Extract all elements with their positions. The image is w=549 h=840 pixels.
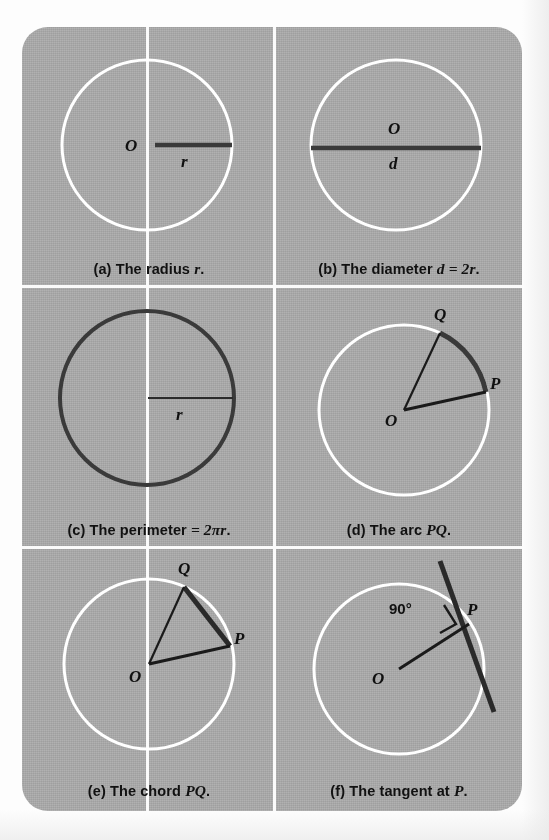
- panel-c-caption: (c) The perimeter = 2πr.: [24, 521, 274, 539]
- panel-d-caption-suffix: .: [447, 522, 451, 538]
- panel-b-caption-math: d = 2r: [437, 260, 476, 277]
- panel-d-diagram: [274, 288, 522, 549]
- label-point-p: P: [467, 601, 477, 618]
- panel-b-diagram: [274, 27, 522, 288]
- panel-d-caption-prefix: (d): [347, 522, 366, 538]
- panel-e-chord: Q P O (e) The chord PQ.: [24, 549, 274, 810]
- panel-a-caption: (a) The radius r.: [24, 260, 274, 278]
- figure-plate: O r (a) The radius r. O d (b) The diamet…: [22, 27, 522, 811]
- panel-b-caption: (b) The diameter d = 2r.: [274, 260, 522, 278]
- radius-op: [399, 624, 469, 669]
- label-center-o: O: [125, 137, 137, 154]
- panel-e-caption: (e) The chord PQ.: [24, 782, 274, 800]
- label-center-o: O: [385, 412, 397, 429]
- chord-pq: [184, 587, 230, 646]
- panel-f-diagram: [274, 549, 522, 810]
- panel-d-caption-math: PQ: [426, 521, 447, 538]
- label-center-o: O: [372, 670, 384, 687]
- panel-a-diagram: [24, 27, 274, 288]
- label-center-o: O: [129, 668, 141, 685]
- panel-f-caption-math: P: [454, 782, 464, 799]
- panel-a-caption-prefix: (a): [94, 261, 112, 277]
- panel-e-caption-prefix: (e): [88, 783, 106, 799]
- panel-e-caption-math: PQ: [185, 782, 206, 799]
- label-point-q: Q: [178, 560, 190, 577]
- panel-d-caption: (d) The arc PQ.: [274, 521, 522, 539]
- panel-e-caption-text: The chord: [110, 783, 181, 799]
- panel-f-caption-text: The tangent at: [349, 783, 450, 799]
- panel-c-caption-suffix: .: [226, 522, 230, 538]
- radius-oq: [149, 587, 184, 664]
- panel-f-caption-suffix: .: [464, 783, 468, 799]
- label-radius-r: r: [181, 153, 188, 170]
- panel-d-caption-text: The arc: [370, 522, 422, 538]
- scan-edge-right: [522, 0, 549, 840]
- figure-page: O r (a) The radius r. O d (b) The diamet…: [0, 0, 549, 840]
- scan-edge-bottom: [0, 810, 549, 840]
- panel-c-diagram: [24, 288, 274, 549]
- radius-op: [149, 646, 230, 664]
- panel-f-caption-prefix: (f): [330, 783, 345, 799]
- panel-a-caption-suffix: .: [200, 261, 204, 277]
- panel-d-arc: Q P O (d) The arc PQ.: [274, 288, 522, 549]
- circle-outline: [311, 60, 481, 230]
- radius-oq: [404, 333, 440, 410]
- label-center-o: O: [388, 120, 400, 137]
- radius-op: [404, 392, 486, 410]
- panel-c-caption-prefix: (c): [67, 522, 85, 538]
- panel-b-caption-prefix: (b): [318, 261, 337, 277]
- panel-f-tangent: 90° P O (f) The tangent at P.: [274, 549, 522, 810]
- label-point-q: Q: [434, 306, 446, 323]
- label-radius-r: r: [176, 406, 183, 423]
- panel-b-caption-text: The diameter: [341, 261, 432, 277]
- label-diameter-d: d: [389, 155, 398, 172]
- panel-a-radius: O r (a) The radius r.: [24, 27, 274, 288]
- right-angle-marker-icon: [440, 605, 456, 633]
- label-angle-90: 90°: [389, 601, 412, 616]
- panel-b-caption-suffix: .: [476, 261, 480, 277]
- panel-b-diameter: O d (b) The diameter d = 2r.: [274, 27, 522, 288]
- panel-e-caption-suffix: .: [206, 783, 210, 799]
- label-point-p: P: [234, 630, 244, 647]
- arc-pq: [440, 333, 486, 392]
- panel-f-caption: (f) The tangent at P.: [274, 782, 522, 800]
- label-point-p: P: [490, 375, 500, 392]
- panel-c-caption-text: The perimeter: [90, 522, 187, 538]
- panel-c-caption-math: = 2πr: [191, 521, 226, 538]
- panel-c-perimeter: r (c) The perimeter = 2πr.: [24, 288, 274, 549]
- panel-a-caption-text: The radius: [116, 261, 190, 277]
- panel-e-diagram: [24, 549, 274, 810]
